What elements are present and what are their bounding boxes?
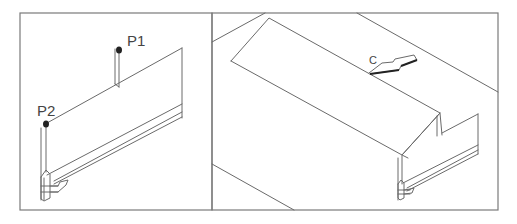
- rpanel-ledge-bottom: [407, 154, 478, 191]
- rpanel-ledge-lower: [407, 150, 478, 188]
- sloped-board: [231, 18, 440, 155]
- point-p2: [43, 121, 49, 128]
- bracket-small-icon: [398, 180, 414, 200]
- point-p1: [116, 47, 122, 54]
- label-c: C: [369, 54, 377, 66]
- right-panel-frame: [212, 13, 498, 210]
- label-p1: P1: [127, 32, 145, 49]
- bg-line-bottom-left: [212, 164, 294, 210]
- board-end-edge: [440, 113, 442, 135]
- bg-line-top-left: [212, 13, 265, 42]
- left-panel: P1 P2: [37, 32, 182, 201]
- ledge-bottom-edge: [54, 117, 182, 184]
- bracket-arrow-icon: [41, 170, 68, 201]
- ledge-upper-edge: [47, 104, 182, 175]
- ledge-lower-edge: [54, 112, 182, 181]
- board-corner: [402, 155, 408, 158]
- diagram-svg: P1 P2: [0, 0, 517, 224]
- board-diagonal: [402, 113, 440, 155]
- right-panel: C: [212, 13, 498, 210]
- rpanel-top-edge: [442, 114, 478, 133]
- label-p2: P2: [37, 102, 55, 119]
- rpanel-ledge-upper: [403, 145, 478, 183]
- diagram-canvas: P1 P2: [0, 0, 517, 224]
- bg-line-top-right: [357, 13, 498, 92]
